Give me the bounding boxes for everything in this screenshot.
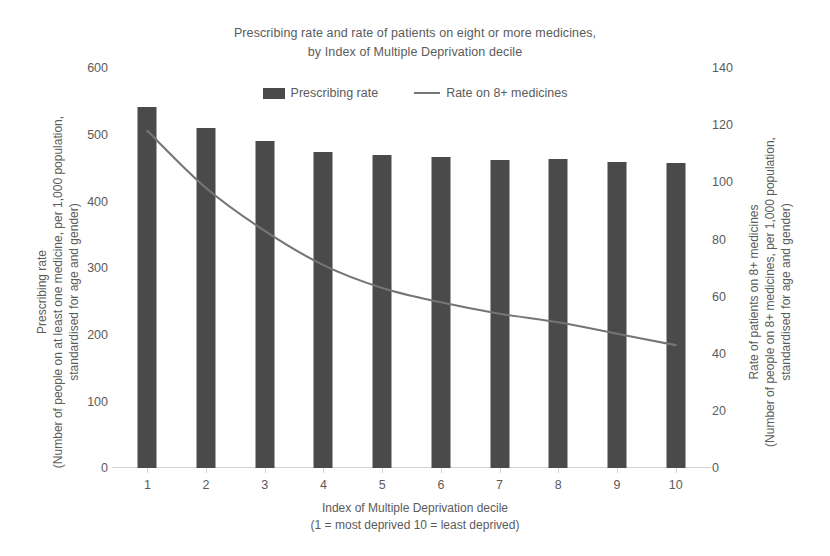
bar-decile-6[interactable] xyxy=(431,157,450,468)
bar-decile-1[interactable] xyxy=(138,107,157,468)
bar-slot-6 xyxy=(412,68,471,468)
x-tick-label-2: 2 xyxy=(177,478,236,492)
bar-decile-8[interactable] xyxy=(549,159,568,468)
x-tick-mark-5 xyxy=(382,468,383,473)
bar-slot-9 xyxy=(588,68,647,468)
bar-decile-9[interactable] xyxy=(607,162,626,468)
x-tick-label-7: 7 xyxy=(470,478,529,492)
x-tick-label-1: 1 xyxy=(118,478,177,492)
bar-slot-8 xyxy=(529,68,588,468)
x-tick-mark-4 xyxy=(323,468,324,473)
plot-area xyxy=(118,68,705,468)
right-axis-title-line-1: Rate of patients on 8+ medicines xyxy=(746,92,762,492)
bar-slot-1 xyxy=(118,68,177,468)
bar-slot-5 xyxy=(353,68,412,468)
bar-slot-7 xyxy=(470,68,529,468)
x-tick-mark-8 xyxy=(558,468,559,473)
x-tick-mark-6 xyxy=(441,468,442,473)
bar-decile-5[interactable] xyxy=(373,155,392,468)
x-tick-label-6: 6 xyxy=(412,478,471,492)
x-axis-title-line-2: (1 = most deprived 10 = least deprived) xyxy=(0,517,830,534)
x-tick-label-5: 5 xyxy=(353,478,412,492)
x-tick-mark-9 xyxy=(617,468,618,473)
bar-decile-10[interactable] xyxy=(666,163,685,468)
left-axis-title-line-2: (Number of people on at least one medici… xyxy=(50,92,66,492)
bar-slot-2 xyxy=(177,68,236,468)
right-axis-title: Rate of patients on 8+ medicines (Number… xyxy=(746,92,794,492)
x-axis-title-line-1: Index of Multiple Deprivation decile xyxy=(0,500,830,517)
x-tick-mark-1 xyxy=(147,468,148,473)
bar-slot-4 xyxy=(294,68,353,468)
bar-decile-3[interactable] xyxy=(255,141,274,468)
x-tick-label-9: 9 xyxy=(588,478,647,492)
bar-slot-3 xyxy=(235,68,294,468)
x-axis-title: Index of Multiple Deprivation decile (1 … xyxy=(0,500,830,534)
left-axis-title-line-3: standardised for age and gender) xyxy=(66,92,82,492)
bar-decile-7[interactable] xyxy=(490,160,509,468)
chart-title-line-1: Prescribing rate and rate of patients on… xyxy=(0,24,830,43)
right-axis-title-line-2: (Number of people on 8+ medicines, per 1… xyxy=(762,92,778,492)
x-tick-mark-3 xyxy=(265,468,266,473)
chart-title: Prescribing rate and rate of patients on… xyxy=(0,24,830,62)
left-axis-tick-600: 600 xyxy=(52,62,108,75)
right-axis-title-line-3: standardised for age and gender) xyxy=(778,92,794,492)
left-axis-title: Prescribing rate (Number of people on at… xyxy=(34,92,82,492)
chart-title-line-2: by Index of Multiple Deprivation decile xyxy=(0,43,830,62)
x-tick-label-3: 3 xyxy=(235,478,294,492)
left-axis-title-line-1: Prescribing rate xyxy=(34,92,50,492)
right-axis-tick-140: 140 xyxy=(712,62,768,75)
chart-container: Prescribing rate and rate of patients on… xyxy=(0,0,830,556)
bar-decile-4[interactable] xyxy=(314,152,333,468)
bar-series-prescribing-rate xyxy=(118,68,705,468)
x-tick-label-8: 8 xyxy=(529,478,588,492)
x-tick-mark-7 xyxy=(500,468,501,473)
x-tick-mark-2 xyxy=(206,468,207,473)
bar-decile-2[interactable] xyxy=(197,128,216,468)
x-tick-label-4: 4 xyxy=(294,478,353,492)
x-axis-tick-labels: 1 2 3 4 5 6 7 8 9 10 xyxy=(118,478,705,492)
x-tick-label-10: 10 xyxy=(646,478,705,492)
x-tick-mark-10 xyxy=(676,468,677,473)
bar-slot-10 xyxy=(646,68,705,468)
